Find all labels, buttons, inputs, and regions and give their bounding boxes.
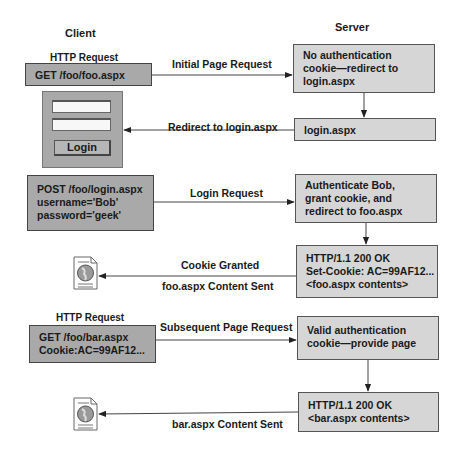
get-bar-request-box: GET /foo/bar.aspx Cookie:AC=99AF12...: [29, 325, 156, 363]
password-input[interactable]: [52, 118, 111, 131]
post-login-request-box: POST /foo/login.aspx username='Bob' pass…: [27, 175, 154, 231]
arrow-label-login-request: Login Request: [190, 187, 263, 199]
arrow-label-redirect: Redirect to login.aspx: [168, 121, 278, 133]
web-page-document-icon: [73, 397, 99, 431]
server-step-valid-cookie: Valid authentication cookie—provide page: [297, 316, 439, 360]
server-step-login-aspx: login.aspx: [294, 118, 436, 141]
login-button[interactable]: Login: [54, 140, 111, 156]
server-step-set-cookie-response: HTTP/1.1 200 OK Set-Cookie: AC=99AF12...…: [296, 245, 438, 298]
login-form-panel: Login: [42, 91, 123, 168]
username-input[interactable]: [52, 100, 111, 113]
client-column-title: Client: [65, 27, 96, 39]
http-request-title-1: HTTP Request: [50, 52, 118, 63]
arrow-label-foo-content-sent: foo.aspx Content Sent: [162, 280, 273, 292]
http-request-title-2: HTTP Request: [56, 312, 124, 323]
arrow-label-subsequent-request: Subsequent Page Request: [160, 321, 292, 333]
arrow-label-bar-content-sent: bar.aspx Content Sent: [172, 418, 283, 430]
server-step-authenticate: Authenticate Bob, grant cookie, and redi…: [295, 174, 437, 223]
get-foo-request-box: GET /foo/foo.aspx: [25, 63, 152, 86]
web-page-document-icon: [73, 256, 99, 290]
arrow-label-initial-request: Initial Page Request: [172, 58, 272, 70]
server-step-bar-response: HTTP/1.1 200 OK <bar.aspx contents>: [298, 392, 439, 432]
server-column-title: Server: [335, 21, 369, 33]
server-step-no-cookie: No authentication cookie—redirect to log…: [293, 44, 435, 93]
arrow-label-cookie-granted: Cookie Granted: [181, 259, 259, 271]
